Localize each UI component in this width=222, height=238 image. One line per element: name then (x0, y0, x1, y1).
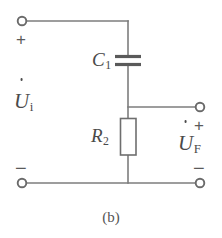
input-voltage-label: Ui (14, 91, 33, 113)
input-positive-terminal-icon (18, 17, 27, 26)
output-negative-sign: − (193, 158, 205, 178)
output-positive-sign: + (194, 117, 204, 134)
phasor-overdot-icon (20, 78, 23, 81)
circuit-schematic (0, 0, 222, 238)
capacitor-icon (115, 57, 141, 65)
resistor-icon (121, 119, 137, 156)
resistor-label-main: R (91, 125, 103, 146)
input-voltage-subscript: i (30, 99, 34, 114)
capacitor-label-main: C (92, 49, 105, 70)
output-voltage-subscript: F (194, 141, 201, 156)
circuit-figure: + − + − Ui UF C1 R2 (b) (0, 0, 222, 238)
capacitor-label-subscript: 1 (105, 59, 111, 72)
output-negative-terminal-icon (196, 179, 205, 188)
input-negative-terminal-icon (18, 179, 27, 188)
output-positive-terminal-icon (196, 103, 205, 112)
output-voltage-symbol: U (178, 133, 193, 154)
input-voltage-symbol: U (14, 91, 29, 112)
figure-caption: (b) (0, 209, 222, 226)
resistor-label-subscript: 2 (103, 135, 109, 148)
resistor-label: R2 (91, 126, 109, 148)
capacitor-label: C1 (92, 50, 111, 72)
input-negative-sign: − (15, 158, 27, 178)
output-voltage-label: UF (178, 133, 201, 155)
input-positive-sign: + (16, 31, 26, 48)
phasor-overdot-icon (184, 120, 187, 123)
terminal-circles (18, 17, 205, 188)
